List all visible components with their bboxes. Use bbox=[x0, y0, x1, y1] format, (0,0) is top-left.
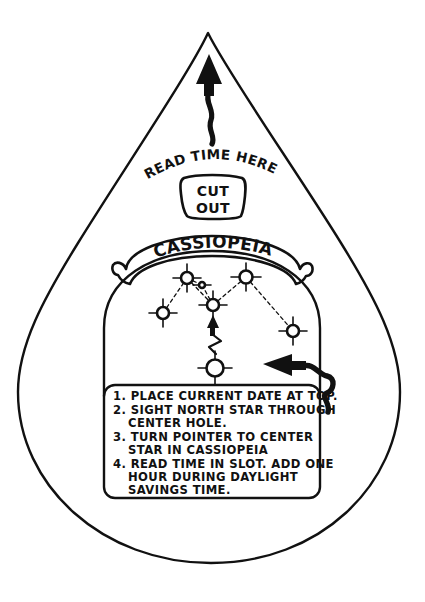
instruction-line-8: SAVINGS TIME. bbox=[128, 483, 231, 497]
instruction-line-4: 3. TURN POINTER TO CENTER bbox=[113, 430, 313, 444]
instruction-line-2: 2. SIGHT NORTH STAR THROUGH bbox=[113, 403, 336, 417]
star-clock-diagram: READ TIME HERE CUT OUT CASSIOPEIA bbox=[0, 0, 425, 602]
instruction-line-7: HOUR DURING DAYLIGHT bbox=[128, 470, 298, 484]
wavy-up-arrow bbox=[196, 54, 222, 144]
read-time-here-label: READ TIME HERE bbox=[141, 146, 280, 182]
instruction-line-6: 4. READ TIME IN SLOT. ADD ONE bbox=[113, 457, 334, 471]
star-right-outer bbox=[279, 317, 307, 345]
instruction-line-3: CENTER HOLE. bbox=[128, 416, 227, 430]
diagram-canvas: READ TIME HERE CUT OUT CASSIOPEIA bbox=[0, 0, 425, 602]
pointer-hole bbox=[198, 351, 232, 385]
cut-out-line2: OUT bbox=[196, 200, 230, 216]
instruction-line-5: STAR IN CASSIOPEIA bbox=[128, 443, 268, 457]
star-left-outer bbox=[149, 299, 177, 327]
constellation-links bbox=[163, 277, 293, 331]
cut-out-banner: CUT OUT bbox=[180, 175, 245, 219]
cut-out-line1: CUT bbox=[197, 183, 229, 199]
cassiopeia-banner: CASSIOPEIA bbox=[112, 232, 312, 284]
instruction-text: 1. PLACE CURRENT DATE AT TOP. 2. SIGHT N… bbox=[113, 389, 338, 497]
pointer-zigzag-arrow bbox=[207, 315, 221, 354]
star-upper-right bbox=[231, 263, 261, 291]
instruction-line-1: 1. PLACE CURRENT DATE AT TOP. bbox=[113, 389, 338, 403]
